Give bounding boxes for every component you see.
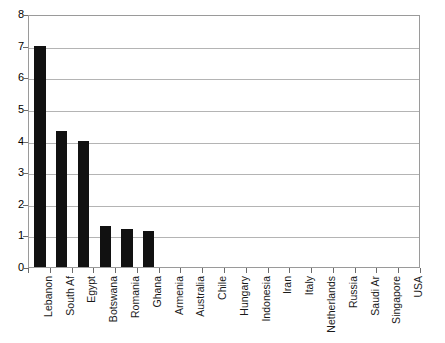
- bars-layer: [29, 16, 419, 267]
- x-axis-tick-mark: [137, 268, 138, 273]
- x-axis-tick-mark: [398, 268, 399, 273]
- y-axis-tick-label: 3: [0, 167, 24, 178]
- x-axis-label: Armenia: [159, 276, 181, 340]
- bar: [121, 229, 132, 267]
- x-axis-label: Ghana: [137, 276, 159, 340]
- x-axis-tick-mark: [50, 268, 51, 273]
- x-axis-tick-mark: [268, 268, 269, 273]
- bar: [56, 131, 67, 267]
- x-axis-label: USA: [398, 276, 420, 340]
- x-axis-label: Saudi Ar: [355, 276, 377, 340]
- x-axis-label: Indonesia: [246, 276, 268, 340]
- bar: [34, 46, 45, 267]
- x-axis-label: Singapore: [376, 276, 398, 340]
- y-axis-tick-label: 5: [0, 104, 24, 115]
- x-axis-tick-mark: [115, 268, 116, 273]
- x-axis-tick-mark: [180, 268, 181, 273]
- x-axis-tick-mark: [224, 268, 225, 273]
- x-axis-label: Romania: [115, 276, 137, 340]
- x-axis-tick-mark: [289, 268, 290, 273]
- x-axis-label: Hungary: [224, 276, 246, 340]
- bar-chart: 012345678 LebanonSouth AfEgyptBotswanaRo…: [0, 0, 445, 343]
- x-axis-label: Lebanon: [28, 276, 50, 340]
- x-axis-tick-mark: [202, 268, 203, 273]
- x-axis-label: Australia: [180, 276, 202, 340]
- x-axis-label: Chile: [202, 276, 224, 340]
- y-axis-tick-label: 0: [0, 262, 24, 273]
- x-axis-tick-mark: [333, 268, 334, 273]
- y-axis-tick-label: 7: [0, 41, 24, 52]
- x-axis-label: Egypt: [72, 276, 94, 340]
- bar: [78, 141, 89, 268]
- x-axis-label: Netherlands: [311, 276, 333, 340]
- bar: [143, 231, 154, 267]
- x-axis-tick-mark: [72, 268, 73, 273]
- x-axis-label: Iran: [268, 276, 290, 340]
- x-axis-tick-mark: [376, 268, 377, 273]
- y-axis-tick-label: 4: [0, 136, 24, 147]
- x-axis-tick-mark: [420, 268, 421, 273]
- y-axis-tick-label: 1: [0, 230, 24, 241]
- x-axis-label: Russia: [333, 276, 355, 340]
- x-axis-label: Italy: [289, 276, 311, 340]
- x-axis-label: South Af: [50, 276, 72, 340]
- x-axis-tick-mark: [28, 268, 29, 273]
- x-axis-label: Botswana: [93, 276, 115, 340]
- x-axis-tick-mark: [159, 268, 160, 273]
- y-axis-tick-label: 8: [0, 9, 24, 20]
- y-axis-tick-label: 2: [0, 199, 24, 210]
- y-axis-tick-label: 6: [0, 72, 24, 83]
- plot-area: [28, 15, 420, 268]
- bar: [100, 226, 111, 267]
- x-axis-tick-mark: [355, 268, 356, 273]
- x-axis-tick-mark: [93, 268, 94, 273]
- x-axis-tick-mark: [246, 268, 247, 273]
- x-axis-tick-mark: [311, 268, 312, 273]
- x-axis-label-text: USA: [413, 276, 424, 298]
